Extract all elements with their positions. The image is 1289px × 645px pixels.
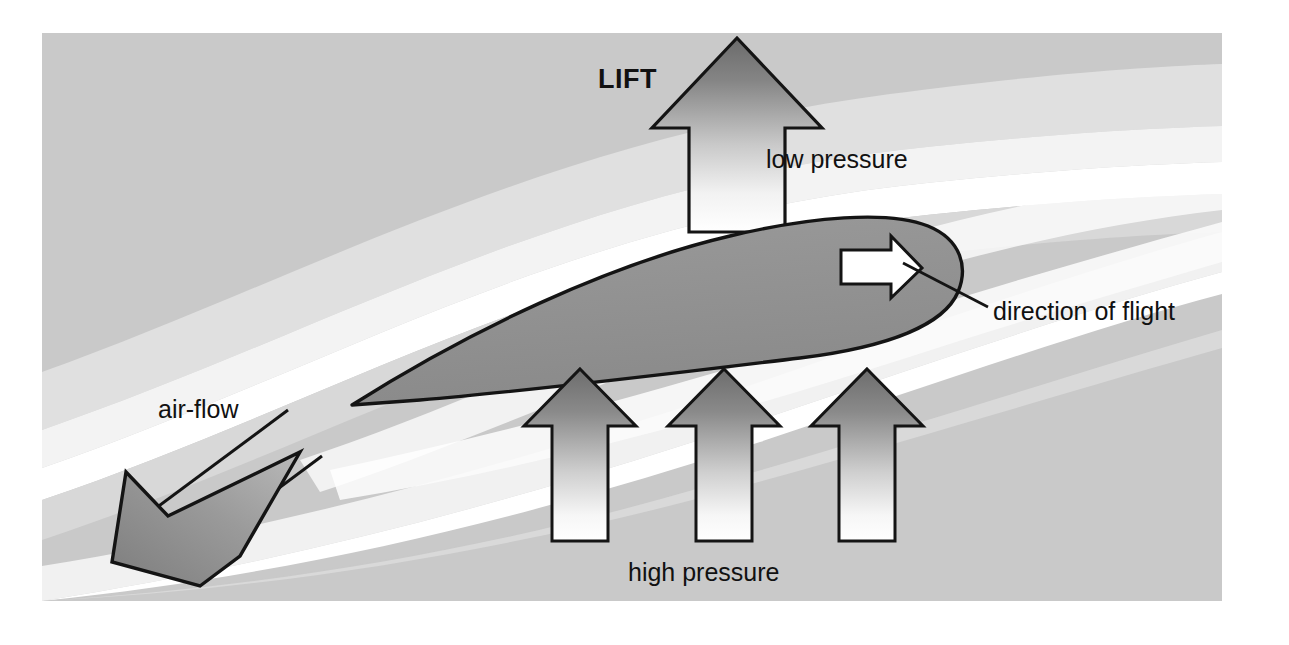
label-lift: LIFT <box>598 64 657 94</box>
high-pressure-arrows <box>518 369 930 547</box>
diagram-page: LIFT low pressure high pressure air-flow… <box>0 0 1289 645</box>
airfoil-lift-figure: LIFT low pressure high pressure air-flow… <box>0 0 1289 645</box>
label-high-pressure: high pressure <box>628 558 779 586</box>
label-direction-of-flight: direction of flight <box>993 297 1175 325</box>
label-low-pressure: low pressure <box>766 145 908 173</box>
label-air-flow: air-flow <box>158 395 240 423</box>
